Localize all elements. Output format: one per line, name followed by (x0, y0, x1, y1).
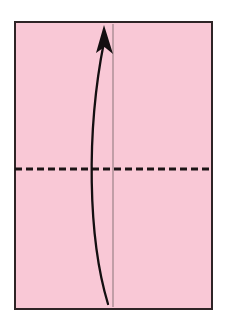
origami-diagram-canvas: Origami valley fold step valley fold cre… (0, 0, 236, 320)
origami-diagram-svg (0, 0, 236, 320)
